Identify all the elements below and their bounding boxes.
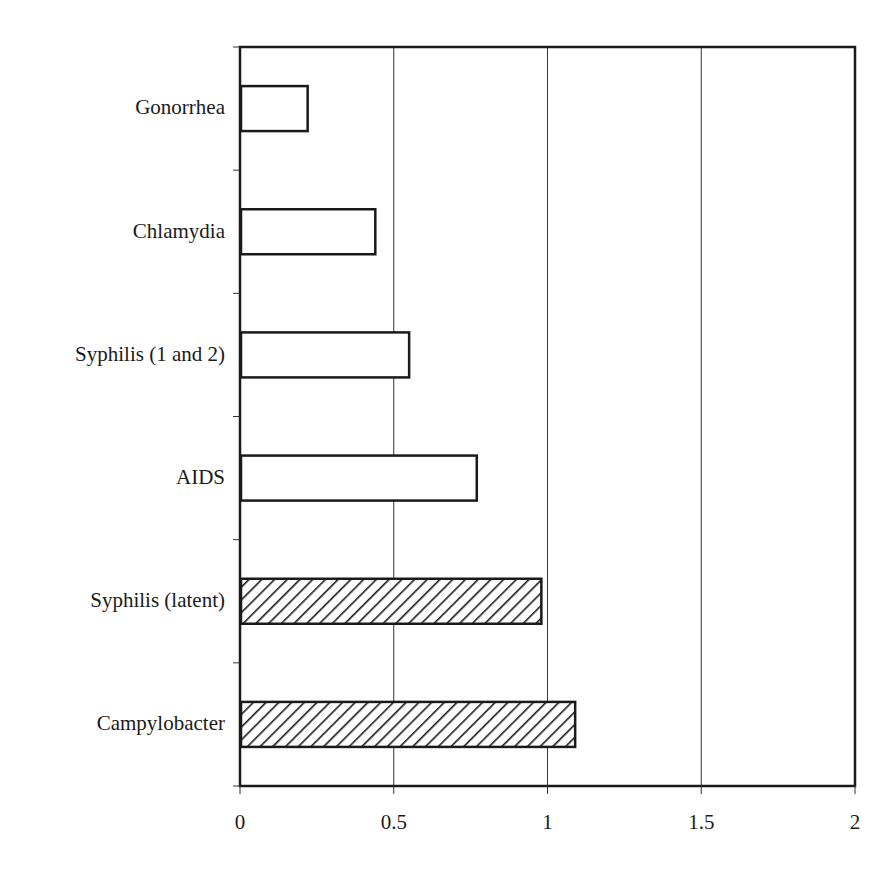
bar-syphilis-latent	[241, 579, 541, 624]
x-tick-label: 1.5	[688, 810, 714, 834]
bars	[241, 86, 575, 747]
x-tick-label: 2	[850, 810, 861, 834]
category-labels: GonorrheaChlamydiaSyphilis (1 and 2)AIDS…	[75, 95, 226, 735]
bar-gonorrhea	[241, 86, 308, 131]
axis-ticks	[233, 47, 855, 794]
bar-chlamydia	[241, 209, 375, 254]
gridlines	[394, 47, 702, 786]
category-label: Chlamydia	[133, 219, 226, 243]
category-label: Gonorrhea	[135, 95, 225, 119]
bar-syphilis-1-and-2	[241, 332, 409, 377]
bar-chart: GonorrheaChlamydiaSyphilis (1 and 2)AIDS…	[0, 0, 894, 872]
bar-campylobacter	[241, 702, 575, 747]
x-axis-tick-labels: 00.511.52	[235, 810, 861, 834]
category-label: Campylobacter	[97, 711, 225, 735]
category-label: Syphilis (latent)	[90, 588, 225, 612]
x-tick-label: 0	[235, 810, 246, 834]
category-label: Syphilis (1 and 2)	[75, 342, 225, 366]
x-tick-label: 1	[542, 810, 553, 834]
category-label: AIDS	[176, 465, 225, 489]
x-tick-label: 0.5	[381, 810, 407, 834]
bar-aids	[241, 456, 477, 501]
